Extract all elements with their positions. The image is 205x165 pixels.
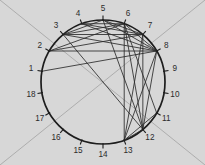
node-label-3: 3	[54, 21, 59, 30]
node-label-14: 14	[98, 150, 108, 159]
chord-edge	[63, 20, 103, 35]
node-label-10: 10	[170, 90, 180, 99]
node-label-7: 7	[148, 21, 153, 30]
node-label-5: 5	[101, 4, 106, 13]
node-label-8: 8	[164, 41, 169, 50]
background-guide-layer	[0, 0, 205, 165]
node-label-13: 13	[123, 146, 133, 155]
chord-edge	[63, 35, 143, 130]
node-label-12: 12	[145, 133, 155, 142]
node-label-17: 17	[35, 114, 45, 123]
node-label-1: 1	[29, 64, 34, 73]
node-label-4: 4	[76, 9, 81, 18]
graph-canvas: 123456789101112131415161718	[0, 0, 205, 165]
chord-edge	[124, 129, 143, 140]
chord-edge	[63, 24, 124, 35]
chord-edge	[103, 20, 143, 35]
node-label-2: 2	[37, 41, 42, 50]
node-label-11: 11	[162, 114, 171, 123]
node-label-16: 16	[52, 133, 62, 142]
node-label-18: 18	[27, 90, 37, 99]
node-label-9: 9	[173, 64, 178, 73]
node-label-6: 6	[126, 9, 131, 18]
chord-edge	[103, 20, 143, 129]
node-label-15: 15	[73, 146, 83, 155]
circular-graph-figure: 123456789101112131415161718	[0, 0, 205, 165]
